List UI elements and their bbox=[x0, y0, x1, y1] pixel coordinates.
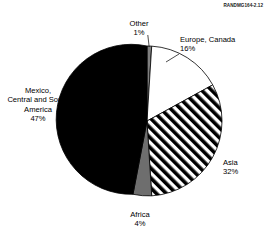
pie-label-africa: Africa 4% bbox=[112, 210, 168, 229]
pie-label-mexico-name-line2: Central and South bbox=[2, 95, 74, 104]
pie-label-mexico-name-line1: Mexico, bbox=[2, 86, 74, 95]
pie-label-europe-canada-name: Europe, Canada bbox=[180, 35, 235, 44]
pie-label-other-value: 1% bbox=[111, 28, 167, 37]
pie-label-africa-value: 4% bbox=[112, 219, 168, 228]
pie-label-europe-canada-value: 16% bbox=[180, 44, 235, 53]
pie-label-mexico-central-south-america: Mexico, Central and South America 47% bbox=[2, 86, 74, 124]
pie-label-africa-name: Africa bbox=[130, 210, 149, 219]
pie-label-other-name: Other bbox=[130, 19, 149, 28]
pie-label-other: Other 1% bbox=[111, 19, 167, 38]
pie-chart-figure: RANDMG164-2.12 Other 1% Europe, Canada 1… bbox=[0, 0, 267, 242]
pie-label-europe-canada: Europe, Canada 16% bbox=[180, 35, 235, 54]
pie-label-asia-value: 32% bbox=[223, 167, 238, 176]
pie-label-asia-name: Asia bbox=[223, 158, 238, 167]
pie-label-mexico-name-line3: America bbox=[2, 105, 74, 114]
pie-label-mexico-value: 47% bbox=[2, 114, 74, 123]
pie-label-asia: Asia 32% bbox=[223, 158, 238, 177]
